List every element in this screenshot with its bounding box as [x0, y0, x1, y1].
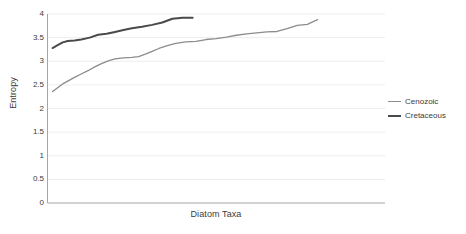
y-axis-tick-label: 1.5: [26, 128, 44, 136]
y-axis-tick-label: 2: [26, 105, 44, 113]
y-axis-tick-label: 1: [26, 152, 44, 160]
y-axis-tick-label: 2.5: [26, 81, 44, 89]
legend-line-icon: [388, 115, 401, 117]
y-axis-tick-label: 3: [26, 57, 44, 65]
series-line-cenozoic: [53, 20, 318, 92]
x-axis-title: Diatom Taxa: [47, 209, 385, 219]
chart-legend: CenozoicCretaceous: [388, 96, 446, 121]
data-series: [53, 18, 318, 92]
series-line-cretaceous: [53, 18, 193, 48]
y-axis-title: Entropy: [8, 63, 18, 123]
legend-item-cenozoic[interactable]: Cenozoic: [388, 96, 446, 107]
legend-label: Cretaceous: [405, 112, 446, 120]
legend-label: Cenozoic: [405, 98, 438, 106]
y-axis-tick-label: 3.5: [26, 34, 44, 42]
y-axis-tick-label: 0: [26, 199, 44, 207]
legend-item-cretaceous[interactable]: Cretaceous: [388, 110, 446, 121]
line-chart: 00.511.522.533.54 Entropy Diatom Taxa Ce…: [0, 0, 466, 234]
legend-line-icon: [388, 101, 401, 102]
y-axis-tick-label: 4: [26, 10, 44, 18]
y-axis-tick-label: 0.5: [26, 175, 44, 183]
